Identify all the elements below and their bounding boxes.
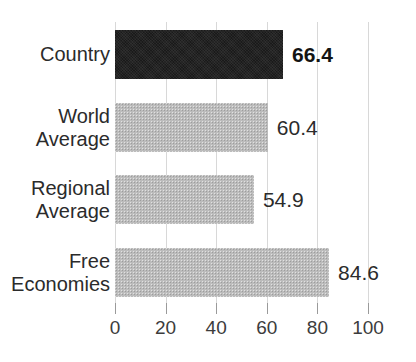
category-label-world-average: World Average: [0, 105, 110, 151]
bar-world-average[interactable]: [115, 103, 268, 152]
x-tick-label-80: 80: [307, 317, 328, 339]
category-label-wrap: Free Economies: [0, 248, 110, 297]
category-label-regional-average: Regional Average: [0, 177, 110, 223]
tick-mark-60: [267, 303, 268, 314]
tick-mark-0: [115, 303, 116, 314]
x-tick-label-0: 0: [110, 317, 121, 339]
category-label-free-economies: Free Economies: [0, 250, 110, 296]
bar-value-label: 54.9: [254, 188, 304, 212]
tick-mark-40: [216, 303, 217, 314]
bar-row[interactable]: 60.4: [115, 103, 368, 152]
bar-row[interactable]: 66.4: [115, 30, 368, 79]
x-tick-label-40: 40: [206, 317, 227, 339]
tick-mark-80: [317, 303, 318, 314]
bar-row[interactable]: 84.6: [115, 248, 368, 297]
category-label-wrap: Country: [0, 30, 110, 79]
x-tick-label-60: 60: [256, 317, 277, 339]
bar-chart: CountryWorld AverageRegional AverageFree…: [0, 0, 416, 362]
category-axis-labels: CountryWorld AverageRegional AverageFree…: [0, 22, 110, 303]
bar-regional-average[interactable]: [115, 175, 254, 224]
x-tick-label-20: 20: [155, 317, 176, 339]
tick-mark-20: [166, 303, 167, 314]
bar-row[interactable]: 54.9: [115, 175, 368, 224]
category-label-country: Country: [0, 43, 110, 66]
category-label-wrap: World Average: [0, 103, 110, 152]
bar-country[interactable]: [115, 30, 283, 79]
plot-area: 66.460.454.984.6: [115, 22, 368, 303]
tick-mark-100: [368, 303, 369, 314]
bar-value-label: 60.4: [268, 116, 318, 140]
chart-title-cropped: [0, 0, 416, 4]
bar-value-label: 84.6: [329, 261, 379, 285]
bar-value-label: 66.4: [283, 43, 333, 67]
bar-free-economies[interactable]: [115, 248, 329, 297]
category-label-wrap: Regional Average: [0, 175, 110, 224]
x-tick-label-100: 100: [352, 317, 384, 339]
